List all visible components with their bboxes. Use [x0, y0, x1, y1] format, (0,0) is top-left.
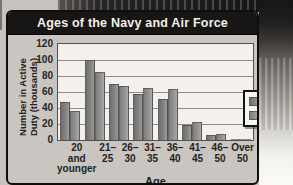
- y-tick-label: 100: [21, 54, 53, 65]
- legend-swatch-air-force: [249, 111, 259, 120]
- bar-group-7: [204, 44, 228, 140]
- bar-navy: [109, 84, 119, 140]
- y-tick-label: 20: [21, 118, 53, 129]
- y-tick-label: 60: [21, 86, 53, 97]
- legend-item-navy: Navy: [249, 95, 259, 107]
- bar-navy: [206, 135, 216, 140]
- bar-air-force: [119, 86, 129, 140]
- bar-navy: [231, 139, 241, 140]
- legend-item-air-force: Air Force: [249, 109, 259, 121]
- x-tick-label: 20 and younger: [57, 143, 96, 175]
- bar-group-5: [156, 44, 180, 140]
- chart-title: Ages of the Navy and Air Force: [37, 16, 228, 30]
- bar-group-3: [107, 44, 131, 140]
- bar-navy: [60, 102, 70, 140]
- bar-group-6: [180, 44, 204, 140]
- bar-air-force: [192, 122, 202, 140]
- bar-group-2: [82, 44, 106, 140]
- bar-air-force: [143, 88, 153, 140]
- y-tick-label: 0: [21, 134, 53, 145]
- x-tick-label: 41– 45: [186, 143, 208, 175]
- bar-navy: [158, 99, 168, 140]
- x-tick-label: 26– 30: [119, 143, 141, 175]
- bar-air-force: [168, 89, 178, 140]
- y-tick-label: 120: [21, 38, 53, 49]
- x-tick-labels: 20 and younger21– 2526– 3031– 3536– 4041…: [57, 143, 254, 175]
- page-edge: [0, 0, 2, 30]
- x-axis-title: Age: [57, 175, 254, 185]
- bar-group-4: [131, 44, 155, 140]
- bar-navy: [85, 60, 95, 140]
- legend: Navy Air Force: [243, 90, 259, 127]
- scanned-page: Ages of the Navy and Air Force Number in…: [0, 0, 293, 185]
- bar-air-force: [70, 111, 80, 140]
- bar-navy: [133, 94, 143, 140]
- y-tick-label: 80: [21, 70, 53, 81]
- chart-card: Ages of the Navy and Air Force Number in…: [6, 10, 259, 185]
- x-tick-label: 46– 50: [209, 143, 231, 175]
- photo-texture: [259, 58, 293, 130]
- chart-title-bar: Ages of the Navy and Air Force: [8, 12, 257, 35]
- x-tick-label: 21– 25: [96, 143, 118, 175]
- bar-air-force: [95, 72, 105, 140]
- x-tick-label: Over 50: [231, 143, 254, 175]
- background-photo-right: [259, 0, 293, 185]
- legend-swatch-navy: [249, 97, 259, 106]
- y-tick-label: 40: [21, 102, 53, 113]
- x-tick-label: 36– 40: [164, 143, 186, 175]
- bar-navy: [182, 125, 192, 140]
- bar-air-force: [216, 134, 226, 140]
- bar-group-1: [58, 44, 82, 140]
- bars-layer: [58, 44, 253, 140]
- x-tick-label: 31– 35: [141, 143, 163, 175]
- bar-air-force: [241, 139, 251, 140]
- plot-area: Navy Air Force: [57, 43, 254, 141]
